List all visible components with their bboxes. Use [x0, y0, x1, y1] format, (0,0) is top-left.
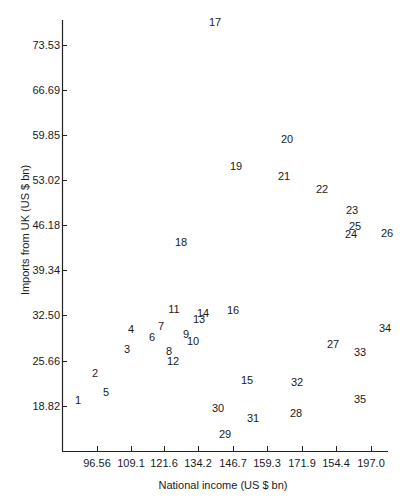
x-tick-label: 171.9: [288, 458, 316, 469]
data-point-label: 18: [175, 237, 187, 248]
data-point-label: 20: [281, 134, 293, 145]
y-tick-label: 73.53: [32, 40, 60, 51]
scatter-chart: 73.5366.6959.8553.0246.1839.3432.5025.66…: [0, 0, 404, 499]
data-point-label: 19: [230, 161, 242, 172]
y-tick-label: 53.02: [32, 175, 60, 186]
data-point-label: 30: [212, 403, 224, 414]
data-point-label: 7: [158, 321, 164, 332]
data-point-label: 3: [124, 344, 130, 355]
y-tick-label: 39.34: [32, 265, 60, 276]
axes: [0, 0, 404, 499]
data-point-label: 14: [197, 308, 209, 319]
data-point-label: 15: [241, 375, 253, 386]
data-point-label: 16: [227, 305, 239, 316]
x-tick-label: 159.3: [253, 458, 281, 469]
data-point-label: 26: [381, 228, 393, 239]
x-tick-label: 121.6: [150, 458, 178, 469]
y-tick-label: 59.85: [32, 130, 60, 141]
y-tick-label: 32.50: [32, 310, 60, 321]
y-axis-label: Imports from UK (US $ bn): [19, 165, 31, 295]
y-tick-label: 46.18: [32, 220, 60, 231]
data-point-label: 35: [354, 394, 366, 405]
data-point-label: 34: [379, 323, 391, 334]
data-point-label: 1: [75, 395, 81, 406]
data-point-label: 12: [167, 356, 179, 367]
data-point-label: 23: [346, 205, 358, 216]
data-point-label: 21: [278, 171, 290, 182]
x-tick-label: 109.1: [117, 458, 145, 469]
y-tick-label: 18.82: [32, 401, 60, 412]
data-point-label: 33: [354, 347, 366, 358]
y-tick-label: 66.69: [32, 85, 60, 96]
data-point-label: 31: [247, 413, 259, 424]
data-point-label: 28: [290, 408, 302, 419]
data-point-label: 5: [103, 387, 109, 398]
x-tick-label: 96.56: [83, 458, 111, 469]
data-point-label: 6: [149, 332, 155, 343]
y-tick-label: 25.66: [32, 356, 60, 367]
data-point-label: 2: [92, 368, 98, 379]
data-point-label: 22: [316, 184, 328, 195]
x-tick-label: 134.2: [184, 458, 212, 469]
x-tick-label: 146.7: [219, 458, 247, 469]
data-point-label: 32: [291, 377, 303, 388]
x-axis-label: National income (US $ bn): [158, 479, 287, 491]
data-point-label: 27: [327, 339, 339, 350]
data-point-label: 10: [187, 336, 199, 347]
data-point-label: 11: [168, 304, 179, 315]
x-tick-label: 197.0: [357, 458, 385, 469]
data-point-label: 29: [219, 429, 231, 440]
x-tick-label: 154.4: [322, 458, 350, 469]
data-point-label: 4: [128, 324, 134, 335]
data-point-label: 17: [209, 17, 221, 28]
data-point-label: 25: [349, 221, 361, 232]
